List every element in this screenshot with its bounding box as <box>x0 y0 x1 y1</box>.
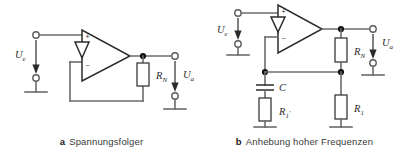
opamp-plus-input-b: + <box>282 8 286 15</box>
resistor-r1-body-b <box>335 95 347 119</box>
figure-container: + − RN Ue Ua a Spannungsfolger <box>0 0 406 159</box>
input-voltage-arrow-head-b <box>234 31 241 41</box>
input-voltage-label-b: Ue <box>217 24 228 38</box>
caption-letter-a: a <box>60 136 65 147</box>
resistor-rn-body-a <box>137 63 149 86</box>
caption-a: a Spannungsfolger <box>0 131 203 151</box>
input-voltage-label-a: Ue <box>15 49 26 63</box>
input-terminal-top-b[interactable] <box>235 10 241 16</box>
output-voltage-arrow-head-a <box>171 83 178 93</box>
circuit-diagram-a: + − RN Ue Ua <box>0 0 203 131</box>
input-terminal-bottom-b[interactable] <box>235 41 241 47</box>
resistor-r1-label-b: R1 <box>353 103 364 117</box>
caption-text-b: Anhebung hoher Frequenzen <box>246 136 373 147</box>
resistor-rn-label-b: RN <box>353 46 365 60</box>
opamp-minus-input-a: − <box>86 62 90 69</box>
resistor-r1prime-body-b <box>259 98 271 121</box>
resistor-rn-body-b <box>335 38 347 62</box>
output-voltage-label-b: Ua <box>382 37 394 51</box>
caption-letter-b: b <box>236 136 242 147</box>
input-voltage-arrow-head-a <box>32 65 39 75</box>
resistor-rn-label-a: RN <box>155 70 167 84</box>
input-terminal-bottom-a[interactable] <box>33 75 39 81</box>
output-terminal-top-b[interactable] <box>370 26 376 32</box>
output-voltage-label-a: Ua <box>183 69 195 83</box>
output-terminal-bottom-a[interactable] <box>172 93 178 99</box>
capacitor-label-b: C <box>279 82 287 93</box>
panel-spannungsfolger: + − RN Ue Ua a Spannungsfolger <box>0 0 203 159</box>
circuit-diagram-b: + − C R1′ RN <box>203 0 406 131</box>
caption-b: b Anhebung hoher Frequenzen <box>203 131 406 151</box>
output-terminal-bottom-b[interactable] <box>370 60 376 66</box>
output-terminal-top-a[interactable] <box>172 53 178 59</box>
input-terminal-top-a[interactable] <box>33 32 39 38</box>
caption-text-a: Spannungsfolger <box>69 136 143 147</box>
opamp-minus-input-b: − <box>282 35 286 42</box>
panel-anhebung-hoher-frequenzen: + − C R1′ RN <box>203 0 406 159</box>
opamp-plus-input-a: + <box>86 33 90 40</box>
output-voltage-arrow-head-b <box>369 50 376 60</box>
resistor-r1prime-label-b: R1′ <box>278 106 291 120</box>
